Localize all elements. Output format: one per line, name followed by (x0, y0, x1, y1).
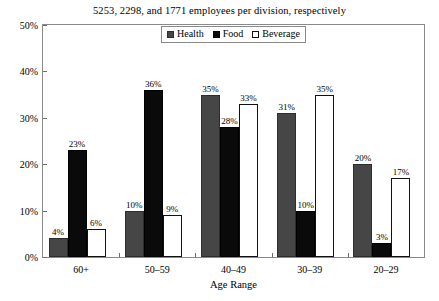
x-axis-category-label: 20–29 (373, 264, 398, 275)
y-axis-tick-mark (43, 164, 47, 165)
bar-value-label: 35% (202, 84, 219, 94)
bar-health-0[interactable] (49, 238, 68, 257)
x-axis-tick-mark (272, 253, 273, 257)
bar-value-label: 35% (316, 84, 333, 94)
bar-beverage-3[interactable] (315, 95, 334, 257)
y-axis-tick-label: 30% (4, 112, 38, 123)
bar-health-4[interactable] (353, 164, 372, 257)
bar-value-label: 3% (376, 232, 388, 242)
x-axis-tick-mark (348, 253, 349, 257)
legend-label: Health (177, 29, 204, 39)
bar-beverage-2[interactable] (239, 104, 258, 257)
bar-value-label: 17% (393, 167, 410, 177)
bar-value-label: 33% (240, 93, 257, 103)
y-axis-tick-mark (43, 118, 47, 119)
bar-food-3[interactable] (296, 211, 315, 257)
y-axis-tick-mark (43, 211, 47, 212)
y-axis-tick-label: 20% (4, 159, 38, 170)
bar-health-3[interactable] (277, 113, 296, 257)
bar-value-label: 28% (221, 116, 238, 126)
x-axis-category-label: 30–39 (297, 264, 322, 275)
bar-value-label: 10% (126, 200, 143, 210)
y-axis-tick-label: 50% (4, 20, 38, 31)
legend-label: Beverage (262, 29, 300, 39)
legend-label: Food (223, 29, 244, 39)
bar-value-label: 9% (166, 204, 178, 214)
swatch-black-icon (213, 31, 220, 38)
y-axis-tick-mark (43, 257, 47, 258)
swatch-gray-icon (167, 31, 174, 38)
bar-beverage-1[interactable] (163, 215, 182, 257)
legend-item-health[interactable]: Health (167, 29, 204, 39)
bar-value-label: 4% (52, 227, 64, 237)
chart-container: 5253, 2298, and 1771 employees per divis… (0, 0, 439, 301)
x-axis-category-label: 40–49 (221, 264, 246, 275)
x-axis-title: Age Range (42, 279, 425, 290)
x-axis-category-label: 50–59 (145, 264, 170, 275)
chart-title: 5253, 2298, and 1771 employees per divis… (0, 5, 439, 16)
bar-beverage-4[interactable] (391, 178, 410, 257)
x-axis-tick-mark (119, 253, 120, 257)
bar-health-2[interactable] (201, 95, 220, 257)
y-axis-tick-label: 0% (4, 252, 38, 263)
bar-value-label: 6% (90, 218, 102, 228)
legend-item-beverage[interactable]: Beverage (252, 29, 300, 39)
chart-legend: HealthFoodBeverage (161, 26, 306, 43)
y-axis-tick-label: 10% (4, 205, 38, 216)
bar-value-label: 20% (355, 153, 372, 163)
bar-food-0[interactable] (68, 150, 87, 257)
bar-food-2[interactable] (220, 127, 239, 257)
swatch-white-icon (252, 31, 259, 38)
bar-value-label: 23% (69, 139, 86, 149)
bar-value-label: 10% (297, 200, 314, 210)
bar-beverage-0[interactable] (87, 229, 106, 257)
bar-health-1[interactable] (125, 211, 144, 257)
x-axis-tick-mark (195, 253, 196, 257)
x-axis-category-label: 60+ (73, 264, 89, 275)
bar-value-label: 31% (278, 102, 295, 112)
bar-food-1[interactable] (144, 90, 163, 257)
y-axis-tick-mark (43, 25, 47, 26)
y-axis-tick-label: 40% (4, 66, 38, 77)
legend-item-food[interactable]: Food (213, 29, 244, 39)
bar-value-label: 36% (145, 79, 162, 89)
bar-food-4[interactable] (372, 243, 391, 257)
y-axis-tick-mark (43, 71, 47, 72)
